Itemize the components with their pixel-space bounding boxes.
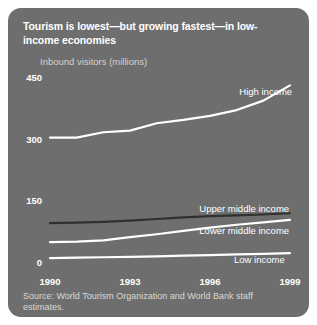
x-tick-label: 1996 [190, 276, 230, 287]
y-tick-label: 150 [12, 195, 42, 206]
chart-figure: Tourism is lowest—but growing fastest—in… [8, 8, 309, 317]
series-label-upper-middle-income: Upper middle income [199, 203, 289, 214]
source-note: Source: World Tourism Organization and W… [23, 291, 291, 313]
x-tick-label: 1990 [30, 276, 70, 287]
plot-area [8, 8, 309, 317]
series-label-high-income: High income [239, 86, 292, 97]
y-tick-label: 450 [12, 72, 42, 83]
series-line-upper-middle-income [50, 213, 290, 223]
x-tick-label: 1993 [110, 276, 150, 287]
series-label-lower-middle-income: Lower middle income [199, 225, 289, 236]
series-label-low-income: Low income [234, 254, 285, 265]
y-tick-label: 0 [12, 257, 42, 268]
x-tick-label: 1999 [270, 276, 309, 287]
y-tick-label: 300 [12, 134, 42, 145]
